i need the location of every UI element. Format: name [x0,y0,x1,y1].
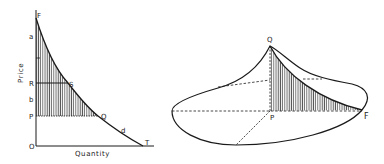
label-S: S [69,81,74,89]
x-axis-label: Quantity [75,150,110,158]
label-F: F [37,12,41,20]
label-O: O [29,143,35,151]
label-edge-F: F [364,112,369,121]
solid-diagram: Q P F [172,36,369,145]
demand-diagram: F a R S b P Q d T O Quantity Price [17,10,154,158]
base-radius [236,111,270,145]
label-R: R [29,80,34,88]
label-P: P [29,113,33,121]
label-base-P: P [270,114,274,122]
label-d: d [121,127,125,135]
label-a: a [29,33,33,41]
label-apex-Q: Q [267,36,273,44]
label-T: T [144,139,150,147]
consumer-surplus-area [36,10,106,118]
label-Q: Q [101,113,107,121]
diagram-canvas: F a R S b P Q d T O Quantity Price Q P F [0,0,384,164]
y-axis-label: Price [17,63,25,83]
label-b: b [29,96,34,104]
